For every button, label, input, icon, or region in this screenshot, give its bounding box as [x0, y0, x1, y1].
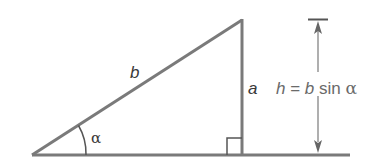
right-angle-marker	[227, 138, 242, 155]
formula-h: h	[276, 79, 285, 98]
formula-b: b	[305, 79, 314, 98]
formula-alpha: α	[346, 78, 358, 98]
triangle-diagram: b α a h = b sin α	[0, 0, 388, 161]
label-alpha: α	[91, 129, 101, 147]
hypotenuse-b	[32, 20, 242, 155]
formula-eq: =	[285, 79, 304, 98]
label-b: b	[130, 63, 139, 82]
formula-sin: sin	[314, 79, 345, 98]
height-formula: h = b sin α	[276, 78, 358, 98]
label-a: a	[248, 79, 257, 98]
angle-arc	[79, 126, 87, 156]
